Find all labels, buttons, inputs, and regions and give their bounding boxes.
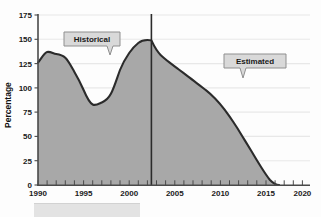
area-chart: 175 150 125 100 75 50 25 0 bbox=[0, 0, 321, 217]
x-tick-label-1995: 1995 bbox=[75, 189, 93, 198]
y-axis-title: Percentage bbox=[3, 82, 13, 128]
x-tick-label-1990: 1990 bbox=[29, 189, 47, 198]
x-axis-tick-labels: 1990 1995 2000 2005 2010 2015 2020 bbox=[29, 189, 312, 198]
y-tick-label-150: 150 bbox=[19, 35, 33, 44]
x-tick-label-2005: 2005 bbox=[166, 189, 184, 198]
annotation-estimated-label: Estimated bbox=[236, 57, 274, 66]
y-tick-label-50: 50 bbox=[23, 132, 32, 141]
y-tick-label-75: 75 bbox=[23, 108, 32, 117]
x-tick-label-2000: 2000 bbox=[120, 189, 138, 198]
annotation-historical-label: Historical bbox=[74, 35, 110, 44]
y-axis-tick-labels: 175 150 125 100 75 50 25 0 bbox=[19, 11, 33, 190]
x-tick-label-2020: 2020 bbox=[294, 189, 312, 198]
y-tick-label-125: 125 bbox=[19, 60, 33, 69]
x-tick-label-2015: 2015 bbox=[257, 189, 275, 198]
caption-strip bbox=[34, 203, 140, 217]
x-tick-label-2010: 2010 bbox=[212, 189, 230, 198]
y-tick-label-25: 25 bbox=[23, 157, 32, 166]
y-tick-label-175: 175 bbox=[19, 11, 33, 20]
chart-figure: 175 150 125 100 75 50 25 0 bbox=[0, 0, 321, 217]
y-tick-label-100: 100 bbox=[19, 84, 33, 93]
